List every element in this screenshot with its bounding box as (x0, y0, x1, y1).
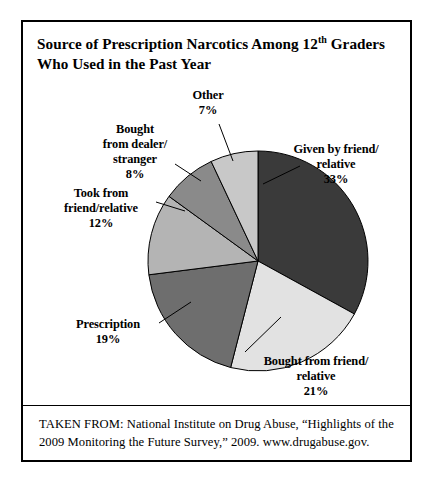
pie-label-bought-from-friend: Bought from friend/relative 21% (236, 354, 396, 399)
pie-label-dealer-value: 8% (74, 167, 196, 182)
pie-label-other-value: 7% (173, 103, 243, 118)
pie-label-given-by-friend-value: 33% (266, 172, 406, 187)
pie-chart: Other 7% Boughtfrom dealer/stranger 8% T… (23, 80, 410, 405)
pie-label-took-name: Took fromfriend/relative (64, 186, 138, 215)
pie-label-dealer-name: Boughtfrom dealer/stranger (103, 122, 167, 166)
pie-label-given-by-friend: Given by friend/relative 33% (266, 142, 406, 187)
pie-label-dealer: Boughtfrom dealer/stranger 8% (74, 122, 196, 183)
figure-frame: Source of Prescription Narcotics Among 1… (21, 20, 412, 462)
source-citation: TAKEN FROM: National Institute on Drug A… (39, 416, 395, 452)
pie-label-prescription-name: Prescription (76, 317, 140, 331)
pie-label-bought-from-friend-name: Bought from friend/relative (264, 354, 369, 383)
pie-label-prescription-value: 19% (47, 332, 169, 347)
pie-label-prescription: Prescription 19% (47, 317, 169, 347)
pie-label-bought-from-friend-value: 21% (236, 384, 396, 399)
pie-label-took: Took fromfriend/relative 12% (33, 186, 169, 231)
pie-label-took-value: 12% (33, 216, 169, 231)
pie-label-other-name: Other (192, 88, 223, 102)
pie-label-other: Other 7% (173, 88, 243, 118)
pie-label-given-by-friend-name: Given by friend/relative (293, 142, 378, 171)
source-divider (23, 405, 410, 406)
chart-title-line2: Who Used in the Past Year (37, 55, 211, 72)
chart-title-line1-post: Graders (327, 35, 385, 52)
chart-title: Source of Prescription Narcotics Among 1… (37, 34, 397, 74)
chart-title-superscript: th (318, 34, 327, 45)
chart-title-line1-pre: Source of Prescription Narcotics Among 1… (37, 35, 318, 52)
